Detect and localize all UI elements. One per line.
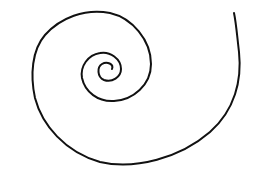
- spiral-drawing-canvas: [0, 0, 254, 176]
- spiral-path: [32, 12, 239, 165]
- spiral-icon: [0, 0, 254, 176]
